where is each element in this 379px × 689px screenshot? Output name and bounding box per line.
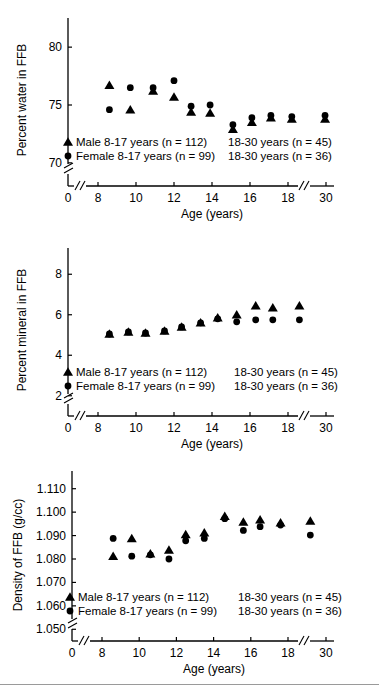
y-tick-label: 1.110 xyxy=(37,482,66,496)
data-point-male xyxy=(232,310,242,319)
axis-break-slash xyxy=(304,636,309,645)
legend-label-male: Male 8-17 years (n = 112) xyxy=(78,591,209,603)
legend-marker-circle xyxy=(65,153,72,160)
data-point-female xyxy=(171,77,178,84)
axis-break-slash xyxy=(84,636,89,645)
x-tick-label: 30 xyxy=(319,421,333,435)
data-point-male xyxy=(104,81,114,90)
axis-break-marks xyxy=(299,181,309,190)
data-point-female xyxy=(147,551,154,558)
y-tick-label: 6 xyxy=(55,308,62,322)
x-tick-label: 18 xyxy=(281,191,295,205)
x-tick-label: 12 xyxy=(167,191,181,205)
axis-break-marks xyxy=(299,636,309,645)
x-tick-label: 16 xyxy=(243,421,257,435)
y-tick-label: 8 xyxy=(55,267,62,281)
x-tick-label: 30 xyxy=(319,646,333,660)
y-tick-label: 1.090 xyxy=(36,529,66,543)
x-tick-label: 18 xyxy=(281,646,295,660)
data-point-female xyxy=(142,330,149,337)
data-point-male xyxy=(305,516,315,525)
axis-break-marks xyxy=(299,411,309,420)
data-point-female xyxy=(128,553,135,560)
data-point-female xyxy=(257,523,264,530)
data-point-female xyxy=(233,318,240,325)
legend-label-adult-female: 18-30 years (n = 36) xyxy=(238,605,342,617)
chart-panel-density: 1.0501.0601.0701.0801.0901.1001.11008101… xyxy=(0,455,379,689)
data-point-female xyxy=(188,103,195,110)
x-tick-label: 10 xyxy=(129,421,143,435)
y-tick-label: 80 xyxy=(49,40,63,54)
figure-page: 70758008101214161830Age (years)Percent w… xyxy=(0,0,379,689)
y-tick-label: 2 xyxy=(55,389,62,403)
x-tick-label: 12 xyxy=(170,646,184,660)
data-point-female xyxy=(201,535,208,542)
legend-marker-circle xyxy=(65,383,72,390)
legend-label-female: Female 8-17 years (n = 99) xyxy=(76,380,215,392)
x-tick-label: 16 xyxy=(244,646,258,660)
legend-label-male: Male 8-17 years (n = 112) xyxy=(76,366,207,378)
legend-label-adult-male: 18-30 years (n = 45) xyxy=(228,136,332,148)
axis-break-slash xyxy=(68,623,77,628)
legend-marker-circle xyxy=(67,608,74,615)
axis-break-marks xyxy=(64,163,73,173)
data-point-male xyxy=(181,530,191,539)
x-tick-label: 10 xyxy=(129,191,143,205)
data-point-male xyxy=(294,301,304,310)
x-tick-label: 8 xyxy=(99,646,106,660)
axis-break-slash xyxy=(80,411,85,420)
x-tick-label: 0 xyxy=(65,421,72,435)
data-point-female xyxy=(106,331,113,338)
x-tick-label: 30 xyxy=(319,191,333,205)
plot-area-3: 1.0501.0601.0701.0801.0901.1001.11008101… xyxy=(0,455,379,689)
data-point-female xyxy=(127,84,134,91)
x-tick-label: 14 xyxy=(207,646,221,660)
data-point-female xyxy=(150,84,157,91)
x-tick-label: 18 xyxy=(281,421,295,435)
plot-area-1: 70758008101214161830Age (years)Percent w… xyxy=(0,0,379,230)
plot-area-2: 246808101214161830Age (years)Percent min… xyxy=(0,230,379,460)
y-tick-label: 1.080 xyxy=(36,552,66,566)
data-point-male xyxy=(268,303,278,312)
legend-marker-triangle xyxy=(63,367,73,376)
footer-divider xyxy=(0,684,379,685)
legend-label-adult-male: 18-30 years (n = 45) xyxy=(238,591,342,603)
data-point-female xyxy=(166,556,173,563)
axis-break-slash xyxy=(64,168,73,173)
axis-break-slash xyxy=(75,411,80,420)
data-point-female xyxy=(269,316,276,323)
axis-break-slash xyxy=(304,181,309,190)
data-point-male xyxy=(238,517,248,526)
data-point-female xyxy=(296,316,303,323)
y-tick-label: 1.060 xyxy=(36,599,66,613)
y-tick-label: 4 xyxy=(55,348,62,362)
x-axis-title: Age (years) xyxy=(183,662,245,676)
data-point-female xyxy=(178,324,185,331)
y-axis-title: Percent water in FFB xyxy=(15,44,29,157)
x-tick-label: 12 xyxy=(167,421,181,435)
axis-break-slash xyxy=(299,636,304,645)
axis-break-marks xyxy=(68,618,77,628)
data-point-male xyxy=(169,92,179,101)
axis-break-slash xyxy=(304,411,309,420)
legend-label-female: Female 8-17 years (n = 99) xyxy=(76,150,215,162)
axis-break-slash xyxy=(299,181,304,190)
legend-label-male: Male 8-17 years (n = 112) xyxy=(76,136,207,148)
x-tick-label: 14 xyxy=(205,191,219,205)
legend-label-adult-female: 18-30 years (n = 36) xyxy=(228,150,332,162)
data-point-male xyxy=(251,301,261,310)
data-point-female xyxy=(214,315,221,322)
x-tick-label: 8 xyxy=(95,421,102,435)
chart-panel-water: 70758008101214161830Age (years)Percent w… xyxy=(0,0,379,230)
data-point-female xyxy=(161,328,168,335)
legend-marker-triangle xyxy=(65,592,75,601)
data-point-female xyxy=(307,532,314,539)
y-tick-label: 1.100 xyxy=(36,505,66,519)
axis-break-slash xyxy=(64,398,73,403)
data-point-female xyxy=(252,316,259,323)
data-point-female xyxy=(240,527,247,534)
y-axis-title: Density of FFB (g/cc) xyxy=(11,499,25,612)
data-point-female xyxy=(322,112,329,119)
data-point-male xyxy=(125,105,135,114)
data-point-female xyxy=(221,515,228,522)
